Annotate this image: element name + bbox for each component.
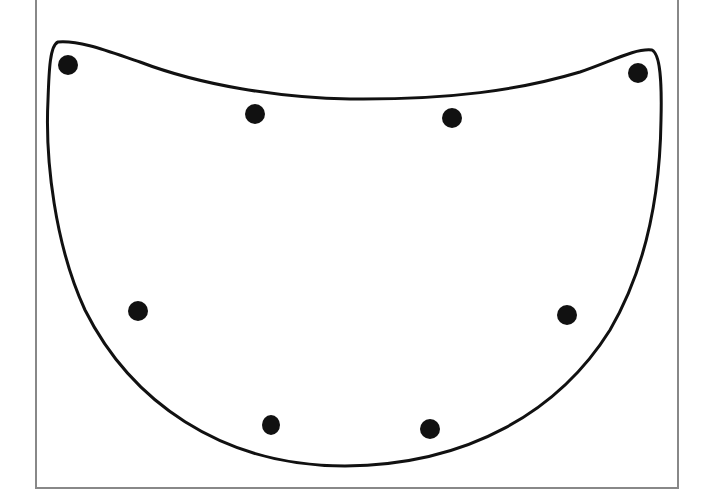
dots-group <box>58 55 648 439</box>
dot-icon <box>557 305 577 325</box>
dot-icon <box>58 55 78 75</box>
bowl-diagram <box>0 0 707 502</box>
dot-icon <box>420 419 440 439</box>
dot-icon <box>628 63 648 83</box>
dot-icon <box>262 415 280 435</box>
dot-icon <box>442 108 462 128</box>
dot-icon <box>245 104 265 124</box>
dot-icon <box>128 301 148 321</box>
bowl-outline <box>47 42 661 466</box>
